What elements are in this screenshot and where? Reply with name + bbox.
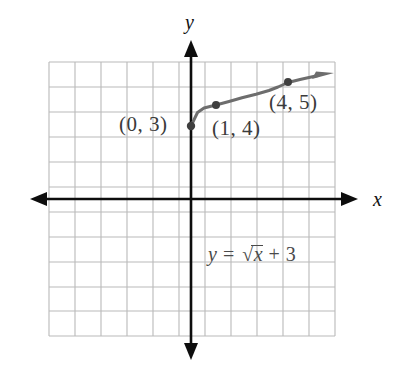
radical-sign: √ xyxy=(242,243,253,265)
data-point-1-4 xyxy=(212,101,220,109)
equation-label: y = √x + 3 xyxy=(208,244,296,264)
curve-arrowhead xyxy=(312,72,334,80)
equation-lhs: y xyxy=(208,243,217,265)
x-axis-left-arrowhead xyxy=(30,192,47,206)
data-point-4-5 xyxy=(284,78,292,86)
point-label-4-5: (4, 5) xyxy=(269,92,318,113)
x-axis-right-arrowhead xyxy=(341,192,358,206)
equation-constant: 3 xyxy=(286,243,297,265)
graph-figure: y x (0, 3) (1, 4) (4, 5) y = √x + 3 xyxy=(0,0,396,374)
radical-overbar xyxy=(251,245,263,246)
y-axis-label: y xyxy=(185,12,194,32)
point-label-0-3: (0, 3) xyxy=(119,114,168,135)
radicand: x xyxy=(254,243,263,265)
data-point-0-3 xyxy=(187,122,195,130)
y-axis-up-arrowhead xyxy=(184,40,198,57)
y-axis-down-arrowhead xyxy=(184,343,198,360)
equation-plus: + xyxy=(269,243,281,265)
equation-equals: = xyxy=(223,243,235,265)
x-axis-label: x xyxy=(373,189,382,209)
point-label-1-4: (1, 4) xyxy=(212,118,261,139)
coordinate-plane-svg xyxy=(0,0,396,374)
square-root-icon: √x xyxy=(240,244,263,264)
